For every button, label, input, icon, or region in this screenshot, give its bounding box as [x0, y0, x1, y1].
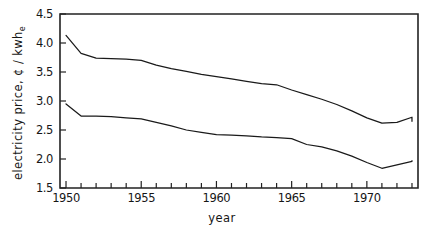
series-line-lower [66, 104, 412, 168]
y-tick-label: 2.0 [36, 152, 53, 166]
x-tick-label: 1955 [127, 191, 155, 205]
y-axis-label-subscript: e [18, 26, 27, 31]
series-line-upper [66, 35, 412, 123]
x-axis-ticks [66, 181, 412, 188]
y-tick-label: 2.5 [36, 123, 53, 137]
x-axis-tick-labels: 19501955196019651970 [52, 191, 381, 205]
y-tick-label: 1.5 [36, 181, 53, 195]
x-axis-label: year [208, 211, 235, 225]
y-tick-label: 3.5 [36, 65, 53, 79]
y-tick-label: 4.0 [36, 36, 53, 50]
svg-text:electricity price, ¢ / kwhe: electricity price, ¢ / kwhe [11, 26, 27, 180]
figure-container: 1.52.02.53.03.54.04.5 195019551960196519… [0, 0, 433, 230]
x-tick-label: 1960 [203, 191, 231, 205]
y-axis-label-text: electricity price, ¢ / kwh [11, 31, 25, 180]
y-axis-ticks [60, 14, 66, 188]
y-axis-label: electricity price, ¢ / kwhe [11, 26, 27, 180]
x-tick-label: 1950 [52, 191, 80, 205]
x-tick-label: 1965 [278, 191, 306, 205]
y-tick-label: 4.5 [36, 7, 53, 21]
y-axis-tick-labels: 1.52.02.53.03.54.04.5 [36, 7, 53, 195]
x-tick-label: 1970 [353, 191, 381, 205]
data-series-group [66, 35, 412, 168]
line-chart: 1.52.02.53.03.54.04.5 195019551960196519… [0, 0, 433, 230]
y-tick-label: 3.0 [36, 94, 53, 108]
